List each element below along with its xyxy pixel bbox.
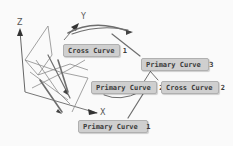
wireframe-planes <box>25 26 88 112</box>
label-cross-curve-1[interactable]: Cross Curve 1 <box>63 44 120 57</box>
x-axis-label: X <box>100 109 105 117</box>
label-primary-curve-3[interactable]: Primary Curve 3 <box>141 58 209 71</box>
y-axis-label: Y <box>81 13 86 21</box>
3d-viewport[interactable]: Z Y X Cross Curve 1 Primary Curve 3 Prim… <box>0 0 233 146</box>
z-axis-label: Z <box>17 19 22 27</box>
label-primary-curve-2[interactable]: Primary Curve 2 <box>91 81 157 94</box>
label-primary-curve-1[interactable]: Primary Curve 1 <box>78 120 148 133</box>
z-axis <box>17 28 25 92</box>
label-cross-curve-2[interactable]: Cross Curve 2 <box>161 81 219 94</box>
